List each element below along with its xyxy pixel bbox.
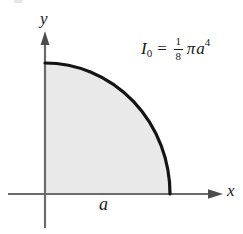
formula-equals: =: [157, 39, 167, 59]
fraction-numerator: 1: [175, 36, 183, 48]
quarter-circle-figure: y x a I0 = 1 8 πa4: [0, 0, 243, 234]
polar-moment-formula: I0 = 1 8 πa4: [141, 36, 210, 62]
quarter-circle-fill: [45, 63, 170, 194]
formula-exponent: 4: [205, 36, 211, 48]
x-axis-arrowhead: [208, 189, 223, 199]
y-axis-label: y: [40, 10, 48, 27]
formula-variable: a: [196, 39, 205, 59]
y-axis-arrowhead: [41, 31, 50, 45]
formula-subscript: 0: [147, 47, 153, 59]
formula-fraction: 1 8: [174, 36, 183, 62]
pi-symbol: π: [187, 39, 196, 59]
x-axis-label: x: [227, 182, 235, 199]
fraction-denominator: 8: [175, 51, 183, 63]
radius-dimension-label: a: [99, 195, 108, 213]
